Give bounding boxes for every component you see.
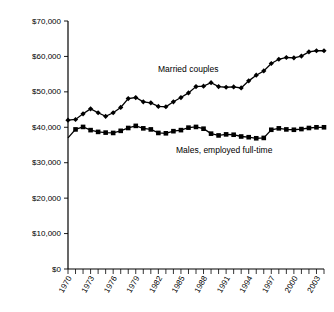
x-axis-tick-label: 2003 <box>306 274 323 294</box>
y-axis-tick-label: $30,000 <box>32 158 61 167</box>
x-axis-tick-label: 1997 <box>260 274 277 294</box>
data-point-marker-square <box>277 126 282 131</box>
data-point-marker-diamond <box>133 95 138 100</box>
data-point-marker-diamond <box>103 114 108 119</box>
data-point-marker-square <box>201 126 206 131</box>
data-point-marker-diamond <box>224 85 229 90</box>
data-point-marker-square <box>231 132 236 137</box>
y-axis-tick-label: $0 <box>52 265 61 274</box>
data-point-marker-square <box>149 127 154 132</box>
data-point-marker-square <box>164 131 169 136</box>
data-point-marker-diamond <box>201 84 206 89</box>
data-point-marker-diamond <box>276 57 281 62</box>
y-axis: $0$10,000$20,000$30,000$40,000$50,000$60… <box>32 17 68 274</box>
data-point-marker-diamond <box>96 110 101 115</box>
x-axis-tick-label: 2000 <box>283 274 300 294</box>
data-point-marker-diamond <box>208 80 213 85</box>
data-point-marker-square <box>96 130 101 135</box>
data-point-marker-square <box>254 136 259 141</box>
chart-container: $0$10,000$20,000$30,000$40,000$50,000$60… <box>0 0 334 312</box>
x-axis-tick-label: 1991 <box>215 274 232 294</box>
data-point-marker-square <box>307 126 312 131</box>
data-point-marker-square <box>239 134 244 139</box>
data-point-marker-square <box>73 127 78 132</box>
series-label-males-full-time: Males, employed full-time <box>176 145 273 155</box>
series-label-married-couples: Married couples <box>158 64 218 74</box>
data-point-marker-square <box>269 127 274 132</box>
data-point-marker-square <box>103 130 108 135</box>
data-point-marker-square <box>156 131 161 136</box>
data-point-marker-diamond <box>65 118 70 123</box>
data-point-marker-diamond <box>141 99 146 104</box>
data-point-marker-diamond <box>291 55 296 60</box>
data-series-group <box>65 48 326 140</box>
y-axis-tick-label: $40,000 <box>32 123 61 132</box>
data-point-marker-diamond <box>216 84 221 89</box>
data-point-marker-diamond <box>231 84 236 89</box>
data-point-marker-diamond <box>148 100 153 105</box>
data-point-marker-square <box>216 133 221 138</box>
data-point-marker-diamond <box>299 53 304 58</box>
x-axis-tick-label: 1979 <box>125 274 142 294</box>
x-axis-tick-label: 1988 <box>193 274 210 294</box>
series-males-full-time <box>68 124 326 141</box>
data-point-marker-square <box>314 125 319 130</box>
x-axis: 1970197319761979198219851988199119941997… <box>57 269 324 294</box>
data-point-marker-square <box>81 125 86 130</box>
y-axis-tick-label: $50,000 <box>32 87 61 96</box>
x-axis-tick-label: 1976 <box>102 274 119 294</box>
data-point-marker-square <box>224 132 229 137</box>
x-axis-tick-label: 1970 <box>57 274 74 294</box>
x-axis-tick-label: 1982 <box>147 274 164 294</box>
data-point-marker-diamond <box>284 55 289 60</box>
data-point-marker-square <box>284 127 289 132</box>
data-point-marker-square <box>299 127 304 132</box>
data-point-marker-square <box>194 125 199 130</box>
data-point-marker-square <box>133 124 138 129</box>
series-married-couples <box>65 48 326 123</box>
data-point-marker-square <box>246 135 251 140</box>
x-axis-tick-label: 1985 <box>170 274 187 294</box>
data-point-marker-square <box>322 125 327 130</box>
series-annotations: Married couplesMales, employed full-time <box>158 64 273 155</box>
x-axis-tick-label: 1994 <box>238 274 255 294</box>
data-point-marker-square <box>118 129 123 134</box>
data-point-marker-square <box>292 127 297 132</box>
data-point-marker-square <box>111 131 116 136</box>
data-point-marker-diamond <box>314 48 319 53</box>
data-point-marker-square <box>141 126 146 131</box>
data-point-marker-square <box>171 129 176 134</box>
y-axis-tick-label: $10,000 <box>32 229 61 238</box>
data-point-marker-square <box>179 128 184 133</box>
data-point-marker-diamond <box>306 49 311 54</box>
data-point-marker-square <box>126 126 131 131</box>
income-line-chart: $0$10,000$20,000$30,000$40,000$50,000$60… <box>0 0 334 312</box>
y-axis-tick-label: $60,000 <box>32 52 61 61</box>
x-axis-tick-label: 1973 <box>80 274 97 294</box>
data-point-marker-square <box>88 128 93 133</box>
data-point-marker-square <box>186 125 191 130</box>
y-axis-tick-label: $20,000 <box>32 194 61 203</box>
data-point-marker-square <box>261 136 266 141</box>
data-point-marker-diamond <box>156 104 161 109</box>
y-axis-tick-label: $70,000 <box>32 17 61 26</box>
data-point-marker-diamond <box>321 48 326 53</box>
data-point-marker-square <box>209 131 214 136</box>
